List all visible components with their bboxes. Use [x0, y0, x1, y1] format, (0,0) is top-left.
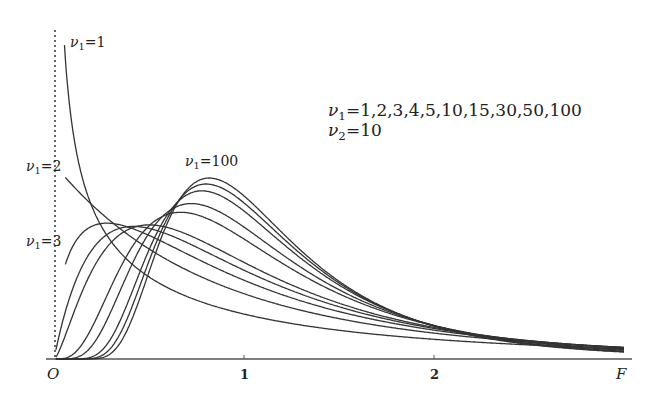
curve-nu1-4 [56, 226, 624, 350]
legend-nu2-value: ν2=10 [328, 120, 382, 146]
label-nu1-100: ν1=100 [185, 153, 238, 171]
curve-nu1-30 [56, 191, 624, 359]
origin-label: O [47, 365, 59, 383]
density-curves [56, 45, 624, 359]
curve-nu1-5 [56, 225, 624, 357]
x-axis-label: F [616, 365, 626, 383]
label-nu1-1: ν1=1 [70, 34, 105, 52]
curve-nu1-2 [65, 178, 624, 348]
label-nu1-2: ν1=2 [26, 158, 61, 176]
curve-nu1-1 [65, 45, 625, 349]
x-tick-label-1: 1 [240, 367, 249, 382]
f-distribution-plot [0, 0, 656, 405]
x-tick-label-2: 2 [430, 367, 439, 382]
label-nu1-3: ν1=3 [26, 233, 61, 251]
